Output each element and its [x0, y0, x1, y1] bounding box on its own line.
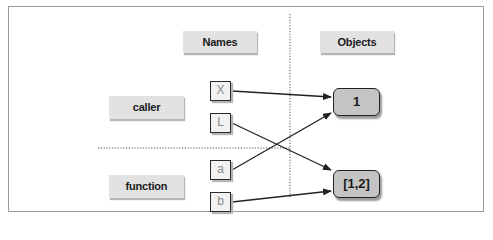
- object-int-1: 1: [333, 88, 380, 116]
- name-a: a: [210, 160, 231, 180]
- name-x: X: [210, 81, 231, 101]
- name-l: L: [210, 113, 231, 133]
- name-b: b: [210, 192, 231, 212]
- scope-label-function: function: [109, 175, 184, 198]
- names-header: Names: [183, 31, 257, 53]
- objects-header: Objects: [320, 31, 394, 53]
- scope-label-caller: caller: [109, 96, 184, 119]
- object-list: [1,2]: [333, 170, 380, 198]
